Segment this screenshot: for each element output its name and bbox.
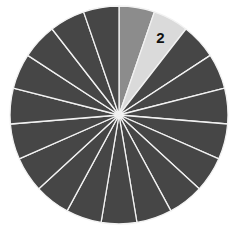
pie-slices xyxy=(10,6,228,224)
pie-chart: 2 xyxy=(0,0,240,230)
slice-label: 2 xyxy=(156,29,164,46)
pie-labels: 2 xyxy=(156,29,164,46)
